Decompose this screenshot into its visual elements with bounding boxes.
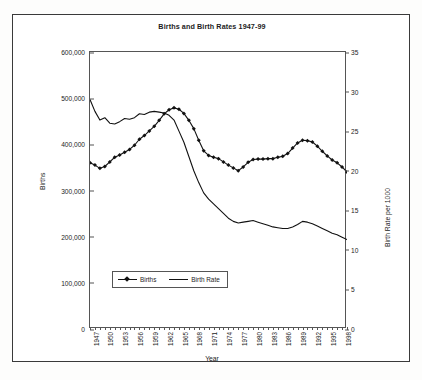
x-axis-tick-mark [159, 327, 160, 330]
x-axis-tick-mark [273, 327, 274, 330]
x-axis-tick-mark [228, 327, 229, 330]
x-axis-tick-label: 1992 [315, 332, 322, 346]
x-axis-tick-mark [268, 327, 269, 330]
legend-item-birth-rate: Birth Rate [169, 276, 219, 283]
x-axis-tick-label: 1998 [345, 332, 352, 346]
x-axis-tick-label: 1953 [122, 332, 129, 346]
x-axis-tick-mark [194, 327, 195, 330]
x-axis-title: Year [13, 355, 411, 362]
x-axis-tick-mark [223, 327, 224, 330]
y-axis-right-tick-label: 20 [345, 167, 358, 174]
x-axis-tick-mark [199, 327, 200, 330]
x-axis-tick-mark [209, 327, 210, 330]
x-axis-tick-label: 1956 [137, 332, 144, 346]
y-axis-right-tick-label: 25 [345, 128, 358, 135]
x-axis-tick-mark [278, 327, 279, 330]
x-axis-tick-mark [214, 327, 215, 330]
y-axis-left-tick-label: 0 [81, 326, 90, 333]
births-line-marker-icon [118, 276, 137, 283]
x-axis-tick-mark [204, 327, 205, 330]
x-axis-tick-mark [317, 327, 318, 330]
x-axis-tick-label: 1986 [285, 332, 292, 346]
chart-title: Births and Birth Rates 1947-99 [13, 22, 411, 31]
x-axis-tick-mark [105, 327, 106, 330]
x-axis-tick-mark [139, 327, 140, 330]
x-axis-tick-mark [154, 327, 155, 330]
x-axis-tick-label: 1980 [256, 332, 263, 346]
x-axis-tick-label: 1995 [330, 332, 337, 346]
x-axis-tick-mark [110, 327, 111, 330]
y-axis-left-tick-label: 500,000 [61, 95, 90, 102]
y-axis-right-tick-label: 10 [345, 246, 358, 253]
x-axis-tick-mark [258, 327, 259, 330]
x-axis-tick-mark [130, 327, 131, 330]
x-axis-tick-mark [184, 327, 185, 330]
x-axis-tick-mark [327, 327, 328, 330]
x-axis-tick-mark [293, 327, 294, 330]
x-axis-tick-label: 1974 [226, 332, 233, 346]
x-axis-tick-label: 1989 [300, 332, 307, 346]
birth-rate-line [90, 99, 347, 239]
x-axis-tick-label: 1947 [93, 332, 100, 346]
x-axis-tick-label: 1977 [241, 332, 248, 346]
y-axis-right-tick-label: 5 [345, 286, 355, 293]
x-axis-tick-mark [169, 327, 170, 330]
chart-frame: Births and Birth Rates 1947-99 Births Bi… [12, 14, 410, 362]
x-axis-tick-mark [253, 327, 254, 330]
x-axis-tick-mark [149, 327, 150, 330]
x-axis-tick-mark [233, 327, 234, 330]
x-axis-tick-mark [164, 327, 165, 330]
y-axis-left-title: Births [39, 173, 46, 190]
x-axis-tick-mark [342, 327, 343, 330]
x-axis-tick-label: 1959 [152, 332, 159, 346]
x-axis-tick-mark [283, 327, 284, 330]
y-axis-left-tick-label: 200,000 [61, 233, 90, 240]
x-axis-tick-mark [115, 327, 116, 330]
x-axis-tick-label: 1971 [211, 332, 218, 346]
x-axis-tick-mark [144, 327, 145, 330]
x-axis-tick-mark [288, 327, 289, 330]
x-axis-tick-label: 1983 [271, 332, 278, 346]
x-axis-tick-mark [125, 327, 126, 330]
x-axis-tick-label: 1965 [182, 332, 189, 346]
y-axis-right-tick-label: 35 [345, 49, 358, 56]
x-axis-tick-label: 1968 [196, 332, 203, 346]
x-axis-tick-mark [337, 327, 338, 330]
y-axis-right-tick-label: 15 [345, 207, 358, 214]
x-axis-tick-mark [100, 327, 101, 330]
x-axis-tick-mark [347, 327, 348, 330]
x-axis-tick-mark [95, 327, 96, 330]
y-axis-right-tick-label: 30 [345, 88, 358, 95]
legend-label-births: Births [140, 276, 156, 283]
x-axis-tick-mark [332, 327, 333, 330]
x-axis-tick-mark [90, 327, 91, 330]
y-axis-left-tick-label: 300,000 [61, 187, 90, 194]
x-axis-tick-mark [312, 327, 313, 330]
x-axis-tick-mark [179, 327, 180, 330]
x-axis-tick-mark [248, 327, 249, 330]
y-axis-right-title: Birth Rate per 1000 [384, 188, 391, 247]
x-axis-tick-mark [219, 327, 220, 330]
x-axis-tick-label: 1962 [167, 332, 174, 346]
x-axis-tick-mark [303, 327, 304, 330]
y-axis-left-tick-label: 100,000 [61, 279, 90, 286]
birth-rate-line-icon [169, 276, 188, 283]
births-markers [90, 106, 347, 174]
x-axis-tick-mark [322, 327, 323, 330]
x-axis-tick-mark [307, 327, 308, 330]
x-axis-tick-mark [120, 327, 121, 330]
x-axis-tick-mark [243, 327, 244, 330]
x-axis-tick-mark [174, 327, 175, 330]
legend-label-birth-rate: Birth Rate [191, 276, 219, 283]
x-axis-tick-mark [298, 327, 299, 330]
legend-item-births: Births [118, 276, 156, 283]
x-axis-tick-mark [134, 327, 135, 330]
x-axis-tick-label: 1950 [107, 332, 114, 346]
legend: Births Birth Rate [112, 271, 228, 288]
y-axis-left-tick-label: 600,000 [61, 49, 90, 56]
y-axis-left-tick-label: 400,000 [61, 141, 90, 148]
x-axis-tick-mark [189, 327, 190, 330]
x-axis-tick-mark [263, 327, 264, 330]
x-axis-tick-mark [238, 327, 239, 330]
